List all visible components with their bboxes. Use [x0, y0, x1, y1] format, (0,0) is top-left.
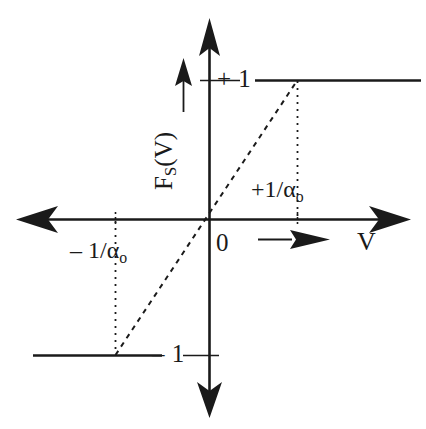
y-axis-label-tail: (V) [150, 132, 177, 167]
origin-label: 0 [216, 230, 229, 255]
x-tick-label-plus-inv-alpha-main: +1/α [251, 176, 296, 202]
x-tick-label-plus-inv-alpha: +1/αo [251, 177, 304, 205]
x-tick-label-plus-inv-alpha-subscript: o [296, 188, 304, 205]
linear-region-dashed-line [116, 80, 298, 355]
x-axis-label: V [357, 229, 376, 255]
graph-canvas [0, 0, 426, 429]
x-tick-label-minus-inv-alpha-subscript: o [119, 249, 127, 266]
x-tick-label-minus-inv-alpha-main: – 1/α [70, 237, 119, 263]
x-direction-indicator-arrowhead [290, 230, 330, 249]
curve-group [33, 80, 421, 356]
y-tick-label-minus-one: – 1 [152, 341, 185, 366]
y-axis-label: FS(V) [148, 120, 182, 202]
saturation-function-figure: FS(V) + 1 – 1 0 +1/αo – 1/αo V [0, 0, 426, 429]
x-tick-label-minus-inv-alpha: – 1/αo [70, 238, 127, 266]
y-axis-label-main: F [150, 176, 177, 190]
y-tick-label-plus-one: + 1 [217, 66, 251, 91]
axes-group [16, 18, 411, 418]
y-axis-label-subscript: S [161, 167, 180, 176]
